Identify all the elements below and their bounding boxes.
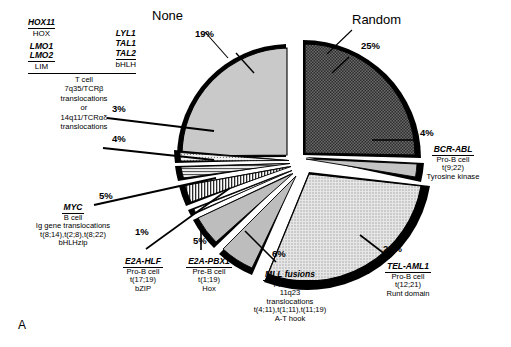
key-divider [28,73,136,74]
key-footer-translocations-2: translocations [28,122,140,131]
callout-tel-aml1-line-2: Runt domain [356,290,460,299]
callout-mll-fusions[interactable]: MLL fusions Pro-B cell 11q23 translocati… [231,263,349,323]
percent-tcr-alpha-delta: 4% [112,133,126,144]
figure-panel-a: HOX11 HOX LMO1 LMO2 LIM LYL1 TAL1 TAL2 b… [0,0,511,347]
callout-e2a-pbx1-gene: E2A-PBX1 [186,257,232,268]
key-family-lim: LIM [28,62,55,72]
key-footer-tcell: T cell [28,75,140,84]
gene-key-box: HOX11 HOX LMO1 LMO2 LIM LYL1 TAL1 TAL2 b… [28,18,140,132]
callout-e2a-hlf-gene: E2A-HLF [123,257,163,268]
percent-random: 25% [361,40,380,51]
label-none: None [152,8,183,23]
key-right-column: LYL1 TAL1 TAL2 bHLH [116,29,136,69]
percent-tcr-beta: 3% [112,103,126,114]
callout-tel-aml1[interactable]: TEL-AML1 Pro-B cell t(12;21) Runt domain [356,255,460,298]
callout-myc[interactable]: MYC B cell Ig gene translocations t(8;14… [8,196,138,248]
key-left-column: HOX11 HOX LMO1 LMO2 LIM [28,18,55,72]
key-footer-translocations-1: translocations [28,94,140,103]
percent-none: 19% [195,28,214,39]
callout-bcr-abl[interactable]: BCR-ABL Pro-B cell t(9;22) Tyrosine kina… [398,138,508,181]
wedge-none[interactable] [177,44,287,158]
percent-tel-aml1: 28% [383,243,402,254]
callout-bcr-abl-gene: BCR-ABL [432,145,475,156]
callout-tel-aml1-gene: TEL-AML1 [385,262,431,273]
callout-mll-line-4: A-T hook [231,315,349,324]
key-family-hox: HOX [28,29,55,39]
callout-myc-gene: MYC [62,203,85,214]
label-random: Random [352,12,401,27]
key-footer-tcrb: 7q35/TCRβ [28,84,140,93]
key-footer-tcrad: 14q11/TCRαδ [28,113,140,122]
percent-e2a-pbx1: 5% [193,235,207,246]
key-gene-tal2: TAL2 [116,49,136,60]
key-family-bhlh: bHLH [116,60,136,70]
callout-mll-gene: MLL fusions [263,270,317,281]
key-gene-hox11: HOX11 [28,18,55,29]
percent-bcr-abl: 4% [420,127,434,138]
key-gene-lmo2: LMO2 [28,51,55,62]
percent-mll: 6% [272,248,286,259]
callout-bcr-abl-line-2: Tyrosine kinase [398,173,508,182]
callout-myc-line-3: bHLHzip [8,239,138,248]
panel-letter-a: A [18,318,26,332]
